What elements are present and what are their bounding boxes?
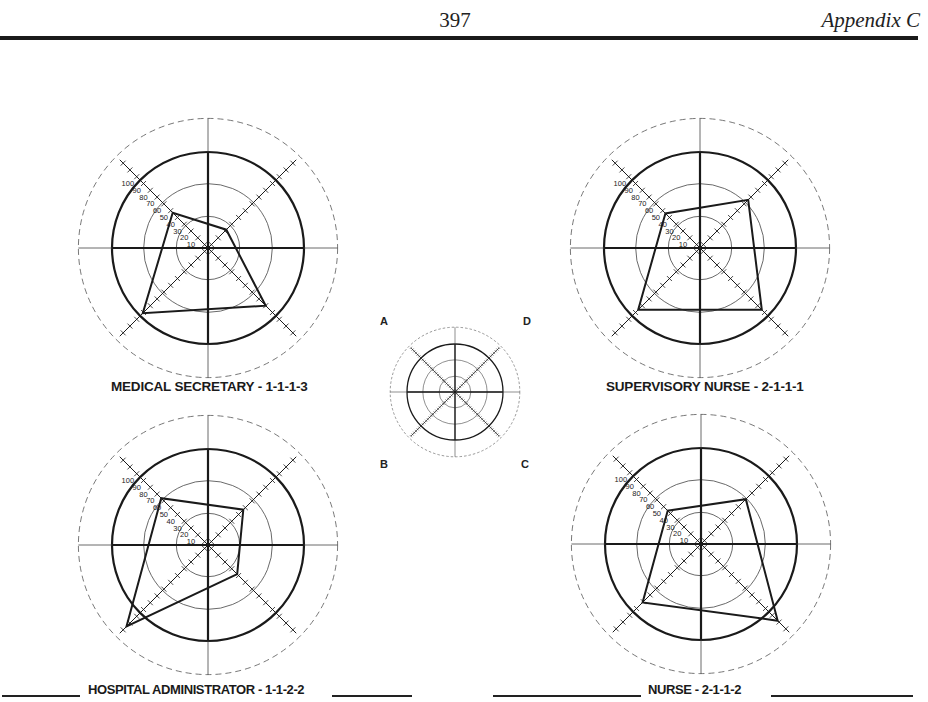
caption-rule-left-b [332, 695, 412, 697]
radar-chart-0: 102030405060708090100 [78, 118, 337, 377]
score-profile-polygon [143, 213, 266, 314]
center-dot [699, 542, 703, 546]
center-dot [698, 246, 702, 250]
key-label-c: C [521, 458, 529, 470]
center-dot [206, 543, 210, 547]
radar-chart-2: 102030405060708090100 [78, 415, 337, 674]
caption-rule-left-a [2, 695, 80, 697]
caption-rule-right-b [771, 695, 913, 697]
center-dot [206, 246, 210, 250]
radar-charts: 1020304050607080901001020304050607080901… [0, 0, 928, 702]
chart-title-supervisory-nurse: SUPERVISORY NURSE - 2-1-1-1 [606, 379, 804, 394]
key-label-a: A [380, 315, 388, 327]
chart-title-hospital-administrator: HOSPITAL ADMINISTRATOR - 1-1-2-2 [88, 682, 304, 697]
key-label-b: B [380, 458, 388, 470]
tick-label: 100 [615, 475, 628, 484]
chart-title-nurse: NURSE - 2-1-1-2 [648, 682, 741, 697]
chart-title-medical-secretary: MEDICAL SECRETARY - 1-1-1-3 [111, 379, 308, 394]
caption-rule-right-a [493, 695, 641, 697]
radar-chart-1: 102030405060708090100 [570, 118, 829, 377]
key-label-d: D [523, 315, 531, 327]
center-dot [454, 391, 456, 393]
key-diagram [390, 327, 520, 457]
tick-label: 100 [614, 179, 627, 188]
radar-chart-3: 102030405060708090100 [571, 414, 830, 673]
tick-label: 100 [122, 476, 135, 485]
tick-label: 100 [122, 179, 135, 188]
